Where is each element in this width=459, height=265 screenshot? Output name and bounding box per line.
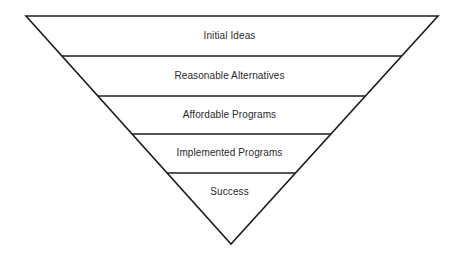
stage-label-reasonable-alternatives: Reasonable Alternatives: [0, 70, 459, 82]
stage-label-success: Success: [0, 186, 459, 198]
stage-label-initial-ideas: Initial Ideas: [0, 30, 459, 42]
stage-label-implemented-programs: Implemented Programs: [0, 147, 459, 159]
funnel-diagram: Initial Ideas Reasonable Alternatives Af…: [0, 0, 459, 265]
funnel-outline: [26, 16, 438, 244]
stage-label-affordable-programs: Affordable Programs: [0, 109, 459, 121]
